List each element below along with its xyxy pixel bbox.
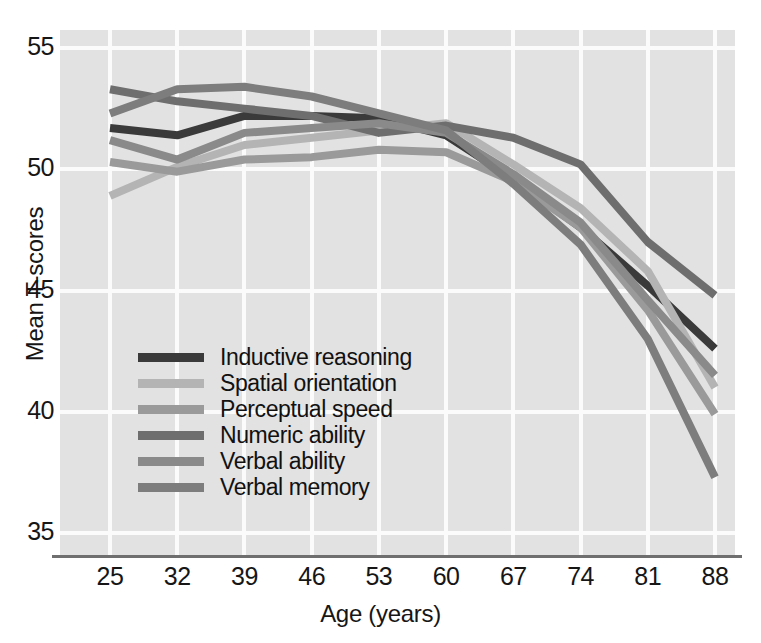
x-axis-title: Age (years) bbox=[0, 600, 761, 628]
legend-swatch bbox=[138, 353, 204, 362]
legend-label: Verbal memory bbox=[220, 476, 369, 499]
x-axis-line bbox=[52, 555, 742, 558]
legend-item: Spatial orientation bbox=[138, 374, 412, 393]
legend-item: Verbal ability bbox=[138, 452, 412, 471]
legend-item: Inductive reasoning bbox=[138, 348, 412, 367]
legend-swatch bbox=[138, 457, 204, 466]
legend-item: Verbal memory bbox=[138, 478, 412, 497]
legend-swatch bbox=[138, 431, 204, 440]
x-tick-label: 88 bbox=[685, 562, 745, 591]
y-tick-label: 55 bbox=[10, 32, 54, 61]
legend: Inductive reasoningSpatial orientationPe… bbox=[138, 348, 412, 497]
x-tick-label: 32 bbox=[147, 562, 207, 591]
y-tick-label: 35 bbox=[10, 517, 54, 546]
legend-swatch bbox=[138, 483, 204, 492]
legend-item: Numeric ability bbox=[138, 426, 412, 445]
x-tick-label: 53 bbox=[349, 562, 409, 591]
legend-label: Spatial orientation bbox=[220, 372, 397, 395]
legend-label: Numeric ability bbox=[220, 424, 365, 447]
x-tick-label: 67 bbox=[483, 562, 543, 591]
x-tick-label: 60 bbox=[416, 562, 476, 591]
x-tick-label: 74 bbox=[551, 562, 611, 591]
x-tick-label: 81 bbox=[618, 562, 678, 591]
legend-label: Verbal ability bbox=[220, 450, 345, 473]
legend-label: Inductive reasoning bbox=[220, 346, 412, 369]
x-tick-label: 25 bbox=[80, 562, 140, 591]
legend-label: Perceptual speed bbox=[220, 398, 393, 421]
y-axis-title: Mean T-scores bbox=[21, 169, 49, 399]
legend-swatch bbox=[138, 405, 204, 414]
legend-item: Perceptual speed bbox=[138, 400, 412, 419]
x-tick-label: 39 bbox=[214, 562, 274, 591]
x-tick-label: 46 bbox=[282, 562, 342, 591]
chart-figure: 5550454035 25323946536067748188 Mean T-s… bbox=[0, 0, 761, 643]
y-tick-label: 40 bbox=[10, 396, 54, 425]
legend-swatch bbox=[138, 379, 204, 388]
